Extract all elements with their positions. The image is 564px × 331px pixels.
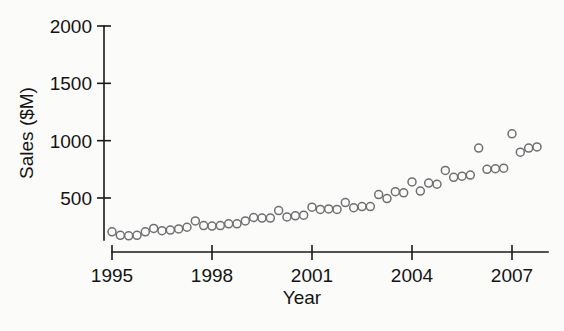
- data-point: [183, 223, 191, 231]
- data-point: [458, 172, 466, 180]
- y-tick-label: 2000: [50, 16, 92, 37]
- data-point: [333, 205, 341, 213]
- data-point: [366, 203, 374, 211]
- data-point: [191, 217, 199, 225]
- data-point: [283, 213, 291, 221]
- y-tick-label: 1000: [50, 131, 92, 152]
- data-point: [125, 232, 133, 240]
- data-point: [400, 189, 408, 197]
- x-tick-label: 2001: [291, 265, 333, 286]
- data-point: [250, 213, 258, 221]
- y-axis-ticks: 500100015002000: [50, 16, 111, 209]
- data-point: [233, 220, 241, 228]
- data-point: [266, 214, 274, 222]
- scatter-plot-canvas: 500100015002000 19951998200120042007 Yea…: [0, 0, 564, 331]
- x-tick-label: 2007: [491, 265, 533, 286]
- data-point: [141, 228, 149, 236]
- data-point: [116, 231, 124, 239]
- y-tick-label: 500: [60, 188, 92, 209]
- y-tick-label: 1500: [50, 73, 92, 94]
- data-point: [525, 144, 533, 152]
- data-point: [358, 203, 366, 211]
- data-point: [291, 212, 299, 220]
- data-point: [383, 195, 391, 203]
- data-point: [425, 179, 433, 187]
- data-point: [350, 204, 358, 212]
- data-point: [475, 144, 483, 152]
- data-point: [408, 178, 416, 186]
- data-point: [241, 217, 249, 225]
- x-axis-ticks: 19951998200120042007: [91, 245, 533, 286]
- data-point: [133, 231, 141, 239]
- data-point: [300, 211, 308, 219]
- data-point: [433, 180, 441, 188]
- data-point: [483, 165, 491, 173]
- data-point: [441, 166, 449, 174]
- data-point: [216, 222, 224, 230]
- data-point: [375, 191, 383, 199]
- data-point: [341, 199, 349, 207]
- x-tick-label: 1998: [191, 265, 233, 286]
- data-point: [533, 143, 541, 151]
- data-point: [391, 188, 399, 196]
- data-point-group: [108, 130, 541, 240]
- x-axis-title: Year: [283, 287, 322, 308]
- data-point: [208, 222, 216, 230]
- data-point: [225, 220, 233, 228]
- data-point: [491, 165, 499, 173]
- data-point: [108, 228, 116, 236]
- y-axis-title: Sales ($M): [16, 87, 37, 179]
- data-point: [316, 205, 324, 213]
- data-point: [275, 207, 283, 215]
- data-point: [450, 173, 458, 181]
- x-tick-label: 2004: [391, 265, 434, 286]
- data-point: [500, 164, 508, 172]
- data-point: [416, 187, 424, 195]
- x-tick-label: 1995: [91, 265, 133, 286]
- chart-figure: 500100015002000 19951998200120042007 Yea…: [0, 0, 564, 331]
- data-point: [466, 171, 474, 179]
- data-point: [325, 205, 333, 213]
- data-point: [158, 227, 166, 235]
- data-point: [258, 214, 266, 222]
- data-point: [150, 224, 158, 232]
- data-point: [166, 226, 174, 234]
- data-point: [516, 148, 524, 156]
- data-point: [200, 222, 208, 230]
- data-point: [308, 203, 316, 211]
- data-point: [508, 130, 516, 138]
- data-point: [175, 225, 183, 233]
